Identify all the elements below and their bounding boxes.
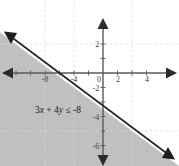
x-axis-arrow-right-icon [166, 68, 177, 79]
solution-region-fill [0, 33, 179, 166]
x-tick-label-2: 2 [116, 75, 120, 84]
y-axis-arrow-up-icon [98, 18, 109, 29]
boundary-arrow-lower-right-icon [162, 147, 175, 160]
equation-plus: + [46, 105, 51, 115]
x-tick-label--8: -8 [42, 75, 48, 84]
equation-relation: ≤ [65, 105, 70, 115]
y-tick-label--6: -6 [93, 142, 99, 151]
equation-constant: -8 [73, 105, 81, 115]
inequality-graph: -8 -4 0 2 4 2 -2 -4 -6 3x + 4y ≤ -8 [0, 0, 179, 166]
equation-var-x: x [40, 105, 44, 115]
equation-var-y: y [59, 105, 63, 115]
y-tick-label--2: -2 [93, 84, 99, 93]
plot-canvas [0, 0, 179, 166]
x-tick-label-4: 4 [145, 75, 149, 84]
x-tick-label--4: -4 [71, 75, 77, 84]
y-tick-label-2: 2 [95, 40, 99, 49]
y-tick-label--4: -4 [93, 113, 99, 122]
inequality-equation-label: 3x + 4y ≤ -8 [35, 105, 81, 115]
